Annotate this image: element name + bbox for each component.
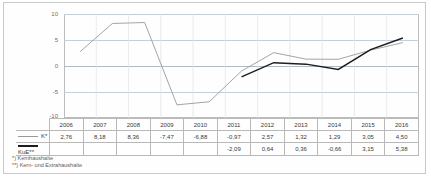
table-header-2011: 2011 <box>217 119 251 131</box>
table-header-2014: 2014 <box>318 119 352 131</box>
data-table-wrapper: 2006 2007 2008 2009 2010 2011 2012 2013 … <box>16 118 419 151</box>
legend-row-k: K* <box>16 131 50 143</box>
cell-kue-2009 <box>150 143 184 156</box>
footnote-2: **) Kern- und Extrahaushalte <box>12 162 82 169</box>
table-header-2012: 2012 <box>251 119 285 131</box>
cell-k-2011: -0,97 <box>217 131 251 143</box>
cell-k-2013: 1,32 <box>284 131 318 143</box>
table-header-row: 2006 2007 2008 2009 2010 2011 2012 2013 … <box>16 119 419 131</box>
cell-k-2014: 1,29 <box>318 131 352 143</box>
table-header-2006: 2006 <box>50 119 84 131</box>
cell-kue-2010 <box>184 143 218 156</box>
cell-kue-2013: 0,36 <box>284 143 318 156</box>
table-header-2016: 2016 <box>385 119 419 131</box>
cell-kue-2014: -0,66 <box>318 143 352 156</box>
table-header-2008: 2008 <box>117 119 151 131</box>
cell-kue-2012: 0,64 <box>251 143 285 156</box>
cell-k-2015: 3,05 <box>351 131 385 143</box>
cell-kue-2008 <box>117 143 151 156</box>
cell-kue-2006 <box>50 143 84 156</box>
table-header-2009: 2009 <box>150 119 184 131</box>
cell-k-2008: 8,36 <box>117 131 151 143</box>
chart-figure: 10 5 0 -5 -10 2006 2007 2008 2009 2010 <box>3 2 426 174</box>
table-row: KuE** -2,09 0,64 0,36 -0,66 3,15 5,38 <box>16 143 419 156</box>
cell-k-2016: 4,50 <box>385 131 419 143</box>
cell-k-2006: 2,76 <box>50 131 84 143</box>
table-corner-cell <box>16 119 50 131</box>
y-axis-label-neg5: -5 <box>32 89 58 96</box>
footnote-1: *) Kernhaushalte <box>12 155 82 162</box>
y-axis-label-0: 0 <box>32 63 58 70</box>
cell-kue-2015: 3,15 <box>351 143 385 156</box>
footnotes: *) Kernhaushalte **) Kern- und Extrahaus… <box>12 155 82 169</box>
line-grey-icon <box>18 136 38 137</box>
plot-area <box>64 14 419 118</box>
table-header-2015: 2015 <box>351 119 385 131</box>
table-row: K* 2,76 8,18 8,36 -7,47 -6,88 -0,97 2,57… <box>16 131 419 143</box>
cell-k-2012: 2,57 <box>251 131 285 143</box>
y-axis-label-5: 5 <box>32 37 58 44</box>
legend-row-kue: KuE** <box>16 143 50 156</box>
y-axis-label-10: 10 <box>32 11 58 18</box>
table-header-2007: 2007 <box>83 119 117 131</box>
cell-kue-2007 <box>83 143 117 156</box>
data-table: 2006 2007 2008 2009 2010 2011 2012 2013 … <box>16 118 419 156</box>
cell-k-2010: -6,88 <box>184 131 218 143</box>
table-header-2010: 2010 <box>184 119 218 131</box>
legend-label-k: K* <box>41 134 47 140</box>
cell-kue-2011: -2,09 <box>217 143 251 156</box>
cell-kue-2016: 5,38 <box>385 143 419 156</box>
cell-k-2007: 8,18 <box>83 131 117 143</box>
cell-k-2009: -7,47 <box>150 131 184 143</box>
table-header-2013: 2013 <box>284 119 318 131</box>
series-lines <box>64 14 419 118</box>
line-black-icon <box>18 145 38 147</box>
